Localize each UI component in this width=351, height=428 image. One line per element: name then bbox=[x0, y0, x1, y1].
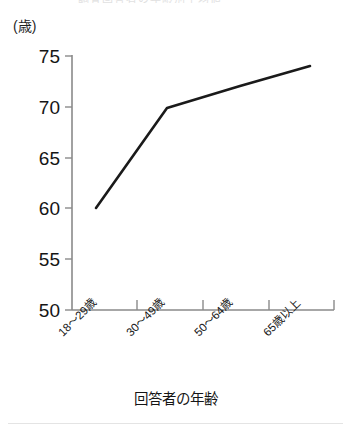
y-tick-label-60: 60 bbox=[18, 199, 60, 218]
y-tick-label-75: 75 bbox=[18, 47, 60, 66]
y-tick-label-50: 50 bbox=[18, 301, 60, 320]
x-axis-title: 回答者の年齢 bbox=[0, 392, 351, 407]
y-tick-label-55: 55 bbox=[18, 250, 60, 269]
y-tick-label-65: 65 bbox=[18, 149, 60, 168]
x-axis-ticks bbox=[137, 300, 334, 310]
scan-artifact-line bbox=[8, 423, 343, 424]
y-axis-ticks bbox=[65, 56, 72, 310]
y-tick-label-70: 70 bbox=[18, 98, 60, 117]
data-series-line bbox=[96, 66, 310, 208]
